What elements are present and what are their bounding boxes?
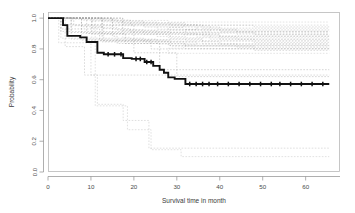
y-axis-title: Probability bbox=[8, 76, 16, 107]
plot-panel-border bbox=[49, 13, 340, 172]
y-tick-label: 0.8 bbox=[31, 44, 38, 53]
y-tick-label: 1.0 bbox=[31, 13, 38, 22]
y-tick-label: 0.4 bbox=[31, 106, 38, 115]
subgroup-curve bbox=[48, 18, 329, 35]
x-axis: 0102030405060 bbox=[46, 177, 340, 191]
y-axis: 0.00.20.40.60.81.0 bbox=[31, 13, 44, 176]
x-axis-ticks: 0102030405060 bbox=[46, 177, 309, 191]
subgroup-curve bbox=[48, 18, 329, 53]
x-tick-label: 30 bbox=[173, 183, 180, 190]
y-tick-label: 0.6 bbox=[31, 75, 38, 84]
subgroup-curve bbox=[48, 18, 329, 39]
x-axis-title: Survival time in month bbox=[162, 197, 226, 204]
survival-plot: 0102030405060 0.00.20.40.60.81.0 Surviva… bbox=[0, 0, 355, 213]
x-tick-label: 0 bbox=[46, 183, 50, 190]
y-tick-label: 0.2 bbox=[31, 136, 38, 145]
y-axis-ticks: 0.00.20.40.60.81.0 bbox=[31, 13, 44, 176]
x-tick-label: 20 bbox=[130, 183, 137, 190]
x-tick-label: 60 bbox=[302, 183, 309, 190]
subgroup-curve bbox=[48, 18, 329, 25]
chart-svg: 0102030405060 0.00.20.40.60.81.0 Surviva… bbox=[0, 0, 355, 213]
x-tick-label: 40 bbox=[216, 183, 223, 190]
x-tick-label: 50 bbox=[259, 183, 266, 190]
y-tick-label: 0.0 bbox=[31, 167, 38, 176]
x-tick-label: 10 bbox=[87, 183, 94, 190]
subgroup-curves bbox=[48, 18, 329, 156]
censor-marks bbox=[108, 52, 323, 86]
